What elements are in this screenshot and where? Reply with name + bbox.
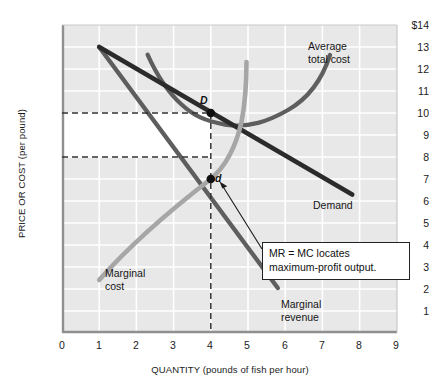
label-demand: Demand	[313, 199, 353, 212]
label-point-D: D	[200, 94, 208, 106]
label-marginal-revenue: Marginal revenue	[281, 298, 321, 323]
callout-mr-equals-mc: MR = MC locates maximum-profit output.	[262, 242, 410, 280]
profit-rectangle	[62, 113, 211, 157]
plot-area	[0, 0, 429, 389]
point-marker-D	[207, 109, 216, 118]
label-point-d: d	[215, 172, 221, 184]
chart-figure: PRICE OR COST (per pound) QUANTITY (poun…	[0, 0, 429, 389]
label-average-total-cost: Average total cost	[308, 40, 350, 65]
point-marker-d	[207, 175, 216, 184]
label-marginal-cost: Marginal cost	[105, 267, 145, 292]
